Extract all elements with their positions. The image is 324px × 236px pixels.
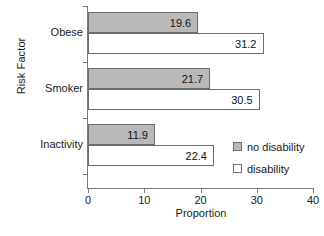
y-axis-tick — [83, 62, 88, 63]
bar-obese-no-disability: 19.6 — [88, 12, 198, 33]
x-axis-tick — [88, 188, 89, 193]
legend-item-no-disability: no disability — [233, 138, 304, 155]
bar-value-label: 19.6 — [170, 17, 197, 29]
chart-legend: no disabilitydisability — [233, 138, 304, 182]
x-axis-tick-label: 40 — [298, 194, 324, 206]
bar-chart: Risk Factor 19.631.221.730.511.922.4 Obe… — [0, 0, 324, 236]
bar-value-label: 21.7 — [182, 73, 209, 85]
legend-label: disability — [247, 163, 289, 175]
y-axis-tick — [83, 6, 88, 7]
x-axis-tick-label: 30 — [242, 194, 272, 206]
bar-value-label: 11.9 — [127, 129, 154, 141]
y-axis-label-smoker: Smoker — [13, 82, 83, 94]
bar-value-label: 30.5 — [231, 94, 258, 106]
x-axis-tick-label: 10 — [129, 194, 159, 206]
y-axis-tick — [83, 174, 88, 175]
legend-swatch-icon — [233, 164, 242, 173]
x-axis-tick — [144, 188, 145, 193]
bar-inactivity-no-disability: 11.9 — [88, 124, 155, 145]
y-axis-label-inactivity: Inactivity — [13, 138, 83, 150]
bar-smoker-disability: 30.5 — [88, 89, 260, 110]
legend-swatch-icon — [233, 142, 242, 151]
x-axis-title: Proportion — [88, 207, 314, 219]
x-axis-tick-label: 0 — [73, 194, 103, 206]
x-axis-tick — [257, 188, 258, 193]
x-axis-tick-label: 20 — [186, 194, 216, 206]
x-axis-tick — [201, 188, 202, 193]
y-axis-tick — [83, 118, 88, 119]
y-axis-label-obese: Obese — [13, 26, 83, 38]
bar-smoker-no-disability: 21.7 — [88, 68, 210, 89]
bar-value-label: 22.4 — [186, 150, 213, 162]
bar-inactivity-disability: 22.4 — [88, 145, 214, 166]
legend-label: no disability — [247, 141, 304, 153]
bar-value-label: 31.2 — [235, 38, 262, 50]
legend-item-disability: disability — [233, 160, 304, 177]
x-axis-tick — [313, 188, 314, 193]
bar-obese-disability: 31.2 — [88, 33, 264, 54]
